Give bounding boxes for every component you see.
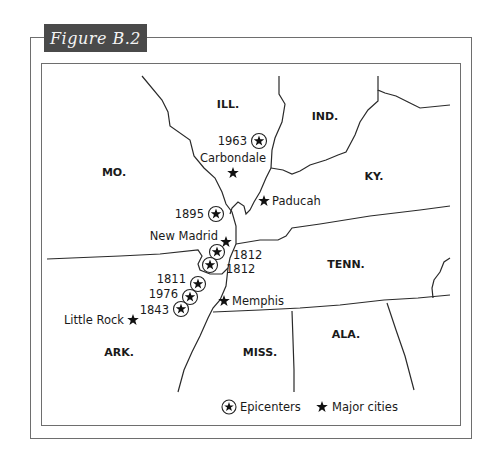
epicenter-marker: 1976 bbox=[149, 287, 198, 305]
city-star-icon bbox=[220, 236, 232, 247]
epicenter-year: 1963 bbox=[218, 134, 247, 148]
svg-text:Little Rock: Little Rock bbox=[64, 313, 124, 327]
epicenter-marker: 1895 bbox=[175, 207, 224, 222]
state-label-mo: MO. bbox=[102, 166, 126, 179]
svg-text:Memphis: Memphis bbox=[232, 294, 284, 308]
svg-text:Paducah: Paducah bbox=[272, 194, 321, 208]
epicenter-year: 1811 bbox=[157, 272, 186, 286]
state-label-ala: ALA. bbox=[332, 328, 360, 341]
city-new-madrid: New Madrid bbox=[150, 229, 232, 247]
legend-major-cities-label: Major cities bbox=[332, 400, 398, 414]
state-label-tenn: TENN. bbox=[327, 258, 365, 271]
epicenter-year: 1976 bbox=[149, 287, 178, 301]
seismic-map: ILL. IND. MO. KY. TENN. ARK. MISS. ALA. … bbox=[0, 0, 496, 464]
epicenter-year: 1812 bbox=[233, 248, 262, 262]
border-ohio-east bbox=[378, 76, 450, 108]
city-star-icon bbox=[227, 167, 239, 178]
epicenter-year: 1843 bbox=[140, 303, 169, 317]
epicenter-year: 1812 bbox=[226, 262, 255, 276]
border-tenn-east bbox=[432, 258, 450, 298]
legend: Epicenters Major cities bbox=[222, 400, 398, 414]
svg-text:New Madrid: New Madrid bbox=[150, 229, 218, 243]
city-little-rock: Little Rock bbox=[64, 313, 139, 327]
border-mo-ark bbox=[47, 250, 228, 274]
border-ill-ind bbox=[271, 76, 285, 168]
state-borders bbox=[47, 76, 450, 392]
city-star-icon bbox=[258, 195, 270, 206]
border-ala-ga bbox=[387, 303, 414, 390]
border-miss-ala bbox=[292, 311, 294, 392]
epicenter-marker: 1812 bbox=[210, 245, 263, 263]
border-ill-ky bbox=[230, 168, 271, 214]
city-paducah: Paducah bbox=[258, 194, 320, 208]
legend-epicenters-label: Epicenters bbox=[240, 400, 301, 414]
state-label-ill: ILL. bbox=[217, 98, 239, 111]
epicenter-marker: 1843 bbox=[140, 302, 189, 318]
epicenter-year: 1895 bbox=[175, 207, 204, 221]
border-ky-tenn bbox=[236, 206, 450, 244]
state-label-ind: IND. bbox=[312, 110, 339, 123]
city-memphis: Memphis bbox=[218, 294, 284, 308]
city-star-icon bbox=[127, 314, 139, 325]
state-label-ky: KY. bbox=[365, 170, 384, 183]
epicenter-marker: 1963 bbox=[218, 134, 267, 149]
legend-city-star-icon bbox=[316, 401, 328, 412]
border-ind-ky bbox=[271, 90, 378, 174]
state-label-ark: ARK. bbox=[104, 346, 134, 359]
svg-text:Carbondale: Carbondale bbox=[200, 151, 266, 165]
state-label-miss: MISS. bbox=[243, 346, 278, 359]
